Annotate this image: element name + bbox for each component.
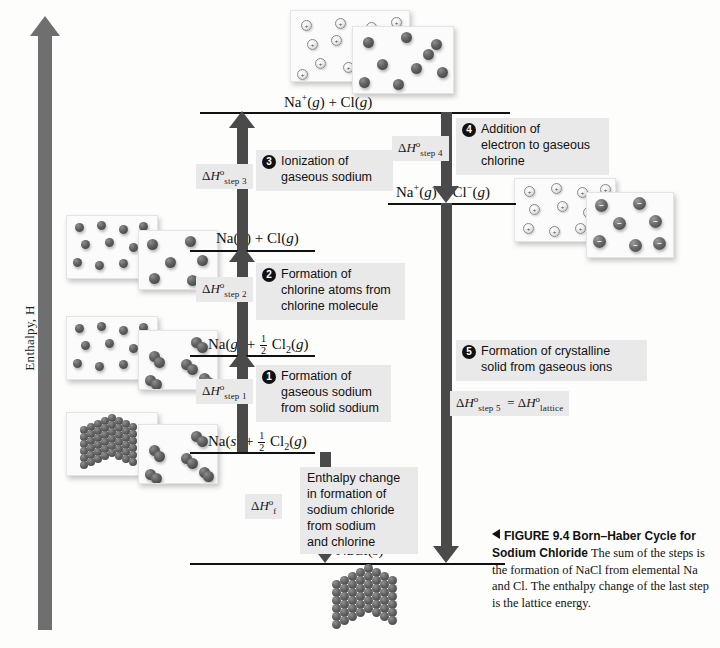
step-2-line-2: chlorine atoms from (281, 283, 391, 297)
formation-line-3: sodium chloride (307, 503, 395, 517)
step-5-arrow-head (433, 546, 459, 563)
step-2-line-3: chlorine molecule (281, 299, 378, 313)
figure-caption: FIGURE 9.4 Born–Haber Cycle for Sodium C… (492, 528, 710, 611)
step-2-number-badge: 2 (262, 268, 276, 282)
step-4-callout: 4 Addition of electron to gaseous chlori… (456, 118, 609, 175)
caption-figure-number: FIGURE 9.4 (504, 529, 569, 543)
step-5-number-badge: 5 (462, 345, 476, 359)
step-5-callout: 5 Formation of crystalline solid from ga… (456, 340, 647, 381)
step-1-line-1: Formation of (281, 369, 351, 383)
step-4-arrow-head (433, 186, 459, 203)
enthalpy-axis-label-text: Enthalpy, H (22, 305, 37, 370)
step-1-callout: 1 Formation of gaseous sodium from solid… (256, 365, 391, 422)
delta-h-lattice-subscript: lattice (540, 403, 563, 413)
step-2-line-1: Formation of (281, 267, 351, 281)
step-1-line-3: from solid sodium (281, 401, 379, 415)
delta-h-step-1-subscript: step 1 (224, 391, 246, 401)
delta-h-step-4-tag: ΔHostep 4 (392, 136, 449, 161)
step-2-callout: 2 Formation of chlorine atoms from chlor… (256, 263, 405, 320)
step-3-arrow-head (229, 111, 255, 128)
enthalpy-axis-shaft (38, 30, 52, 630)
formation-line-4: from sodium (307, 519, 376, 533)
delta-h-step-1-tag: ΔHostep 1 (196, 379, 253, 404)
step-4-line-1: Addition of (481, 122, 540, 136)
level-line-na-plus-cl-minus (388, 203, 516, 205)
step-5-arrow-shaft (441, 203, 452, 546)
delta-h-step-5-subscript: step 5 (478, 403, 500, 413)
level-line-nacl-solid (190, 563, 505, 565)
delta-h-step-2-subscript: step 2 (224, 289, 246, 299)
level-line-na-solid-half-cl2 (190, 452, 315, 454)
formation-line-2: in formation of (307, 487, 386, 501)
level-label-na-plus-cl: Na+(g) + Cl(g) (284, 92, 372, 111)
step-4-line-3: chlorine (481, 154, 525, 168)
delta-h-step-2-tag: ΔHostep 2 (196, 277, 253, 302)
step-5-line-2: solid from gaseous ions (481, 360, 612, 374)
panel-chloride-ions-gas: − − − − − − − (586, 192, 674, 258)
step-5-line-1: Formation of crystalline (481, 344, 610, 358)
delta-h-step-5-tag: ΔHostep 5 = ΔHolattice (450, 391, 569, 416)
step-4-line-2: electron to gaseous (481, 138, 590, 152)
level-label-na-half-cl2-gas: Na(g) + 12 Cl2(g) (208, 334, 308, 356)
level-label-na-solid-half-cl2: Na(s) + 12 Cl2(g) (208, 431, 307, 453)
step-2-arrow-shaft (237, 262, 248, 355)
step-3-line-1: Ionization of (281, 154, 348, 168)
figure-canvas: Enthalpy, H + + + + + + + + + + + + + Na… (0, 0, 720, 648)
delta-h-step-3-subscript: step 3 (224, 176, 246, 186)
formation-line-5: and chlorine (307, 535, 375, 549)
enthalpy-axis-label: Enthalpy, H (22, 278, 38, 398)
step-1-number-badge: 1 (262, 370, 276, 384)
step-4-number-badge: 4 (462, 123, 476, 137)
formation-note: Enthalpy change in formation of sodium c… (300, 467, 418, 554)
step-1-line-2: gaseous sodium (281, 385, 372, 399)
step-3-line-2: gaseous sodium (281, 170, 372, 184)
delta-h-step-3-tag: ΔHostep 3 (196, 164, 253, 189)
delta-h-formation-subscript: f (273, 506, 276, 516)
enthalpy-axis-arrowhead (30, 16, 60, 36)
delta-h-formation-tag: ΔHof (245, 494, 282, 519)
delta-h-step-4-subscript: step 4 (420, 148, 442, 158)
panel-chlorine-molecules-gas-2 (138, 424, 218, 484)
step-3-callout: 3 Ionization of gaseous sodium (256, 150, 393, 191)
panel-chlorine-atoms-gas (352, 26, 454, 94)
step-3-number-badge: 3 (262, 155, 276, 169)
caption-triangle-icon (492, 529, 500, 539)
step-3-arrow-shaft (237, 128, 248, 250)
formation-line-1: Enthalpy change (307, 471, 400, 485)
